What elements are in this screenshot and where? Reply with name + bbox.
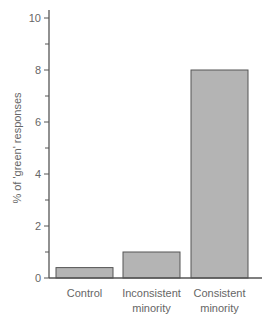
y-axis-title: % of 'green' responses [11, 92, 23, 204]
y-tick-label: 8 [35, 64, 41, 76]
bars [56, 70, 248, 278]
bar-chart: 0246810 ControlInconsistentminorityConsi… [0, 0, 269, 319]
y-tick-label: 2 [35, 220, 41, 232]
bar-control [56, 268, 113, 278]
y-tick-label: 4 [35, 168, 41, 180]
x-category-label: Control [67, 287, 102, 299]
x-category-label: Inconsistent [122, 287, 181, 299]
bar-consistent-minority [191, 70, 248, 278]
bar-inconsistent-minority [123, 252, 180, 278]
y-axis: 0246810 [29, 10, 49, 284]
y-tick-label: 10 [29, 12, 41, 24]
x-axis: ControlInconsistentminorityConsistentmin… [49, 278, 262, 314]
x-category-label: Consistent [194, 287, 246, 299]
y-tick-label: 0 [35, 272, 41, 284]
y-tick-label: 6 [35, 116, 41, 128]
x-category-label: minority [200, 302, 239, 314]
x-category-label: minority [132, 302, 171, 314]
